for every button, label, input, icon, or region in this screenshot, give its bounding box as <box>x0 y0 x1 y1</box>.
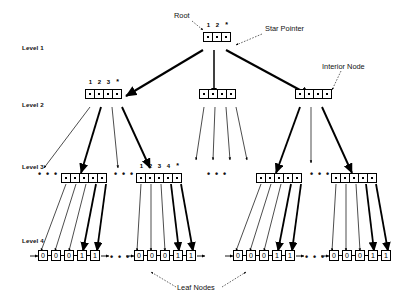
level2-a-key-0: 1 <box>86 79 95 85</box>
leaf-1-4[interactable]: 1 <box>90 250 100 261</box>
level3-g2-to-leaves <box>137 184 193 251</box>
diagram-canvas: Level 1 Level 2 Level 3 Level 4 Root Sta… <box>0 0 404 300</box>
level3-ellipsis-center: • • • <box>207 172 227 177</box>
leaf-4-3[interactable]: 1 <box>368 250 378 261</box>
leaf-3-3[interactable]: 1 <box>272 250 282 261</box>
level2-node-b[interactable] <box>199 89 236 99</box>
level3-2-key-3: 4 <box>164 163 173 169</box>
leaf-3-2[interactable]: 0 <box>259 250 269 261</box>
level2-node-c[interactable] <box>295 89 332 99</box>
level3-2-key-4: * <box>173 163 182 169</box>
leaf-3-4[interactable]: 1 <box>285 250 295 261</box>
level2-c-cell-3[interactable] <box>322 89 332 99</box>
root-cell-2[interactable] <box>221 32 231 42</box>
level2-c-to-level3-edges <box>276 107 352 173</box>
level2-node-a-key-labels: 1 2 3 * <box>86 79 122 85</box>
leaf-nodes-leader-right <box>222 272 246 287</box>
leaf-ellipsis-right: • • • <box>305 255 325 260</box>
level2-a-key-3: * <box>113 79 122 85</box>
level3-node-2[interactable] <box>136 173 182 183</box>
level3-node-1[interactable] <box>61 173 107 183</box>
leaf-ellipsis-left: • • • <box>110 255 130 260</box>
level3-4-cell-4[interactable] <box>367 173 377 183</box>
level2-a-cell-3[interactable] <box>112 89 122 99</box>
leaf-3-0[interactable]: 0 <box>233 250 243 261</box>
leaf-3-1[interactable]: 0 <box>246 250 256 261</box>
root-key-0: 1 <box>204 22 213 28</box>
level3-ellipsis-mid-left: • • • <box>114 172 134 177</box>
root-key-1: 2 <box>213 22 222 28</box>
level3-3-cell-4[interactable] <box>292 173 302 183</box>
level2-a-to-level3-edges <box>44 107 150 173</box>
level3-g4-to-leaves <box>332 184 388 251</box>
leaf-4-2[interactable]: 0 <box>355 250 365 261</box>
root-leader <box>192 21 203 30</box>
level3-g1-to-leaves <box>41 184 106 251</box>
level3-node-4[interactable] <box>331 173 377 183</box>
level3-node-2-key-labels: 1 2 3 4 * <box>137 163 182 169</box>
root-key-2: * <box>222 22 231 28</box>
level3-2-key-0: 1 <box>137 163 146 169</box>
level3-node-3[interactable] <box>256 173 302 183</box>
star-pointer-leader <box>236 34 262 45</box>
level2-b-cell-3[interactable] <box>226 89 236 99</box>
level3-g3-to-leaves <box>236 184 301 251</box>
leaf-group-2[interactable]: 0 0 0 1 1 <box>134 250 196 261</box>
leaf-1-1[interactable]: 0 <box>51 250 61 261</box>
root-node[interactable] <box>203 32 231 42</box>
leaf-nodes-leader-left <box>151 272 176 287</box>
level2-b-to-level3-edges <box>196 107 247 160</box>
level2-a-key-2: 3 <box>104 79 113 85</box>
leaf-1-2[interactable]: 0 <box>64 250 74 261</box>
level3-2-key-1: 2 <box>146 163 155 169</box>
leaf-4-0[interactable]: 0 <box>329 250 339 261</box>
leaf-2-2[interactable]: 0 <box>160 250 170 261</box>
leaf-group-3[interactable]: 0 0 0 1 1 <box>233 250 295 261</box>
leaf-group-1[interactable]: 0 0 0 1 1 <box>38 250 100 261</box>
level3-ellipsis-mid-right: • • • <box>310 172 330 177</box>
level3-2-cell-4[interactable] <box>172 173 182 183</box>
leaf-group-4[interactable]: 0 0 0 1 1 <box>329 250 391 261</box>
level2-node-a[interactable] <box>85 89 122 99</box>
level3-1-cell-4[interactable] <box>97 173 107 183</box>
level2-a-key-1: 2 <box>95 79 104 85</box>
leaf-2-3[interactable]: 1 <box>173 250 183 261</box>
leaf-2-1[interactable]: 0 <box>147 250 157 261</box>
leaf-4-4[interactable]: 1 <box>381 250 391 261</box>
leaf-1-3[interactable]: 1 <box>77 250 87 261</box>
root-key-labels: 1 2 * <box>204 22 231 28</box>
leaf-4-1[interactable]: 0 <box>342 250 352 261</box>
leaf-1-0[interactable]: 0 <box>38 250 48 261</box>
interior-node-leader <box>332 71 341 90</box>
level3-2-key-2: 3 <box>155 163 164 169</box>
leaf-2-4[interactable]: 1 <box>186 250 196 261</box>
leaf-2-0[interactable]: 0 <box>134 250 144 261</box>
level3-ellipsis-left: • • • <box>38 172 58 177</box>
